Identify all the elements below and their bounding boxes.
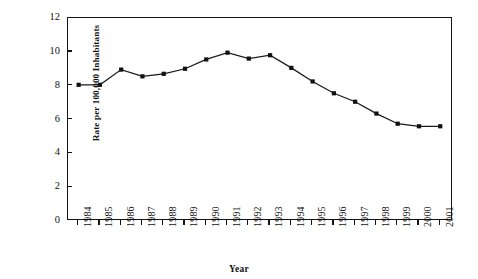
series-polyline xyxy=(79,53,441,127)
x-tick-label: 1989 xyxy=(188,206,199,227)
data-point-marker: 1995: 8.25 xyxy=(311,79,315,83)
x-tick-label: 1987 xyxy=(146,206,157,227)
x-tick-label: 1997 xyxy=(359,206,370,227)
x-tick-label: 2000 xyxy=(422,206,433,227)
data-point-marker: 1991: 9.95 xyxy=(225,51,229,55)
x-tick-mark xyxy=(396,220,397,225)
line-chart: Rate per 100,000 Inhabitants 1984: 8.051… xyxy=(0,0,478,279)
data-point-marker: 1996: 7.55 xyxy=(332,91,336,95)
x-tick-label: 1984 xyxy=(82,206,93,227)
data-point-marker: 1987: 8.55 xyxy=(140,74,144,78)
x-tick-label: 1993 xyxy=(273,206,284,227)
data-point-marker: 1990: 9.55 xyxy=(204,57,208,61)
y-tick-label: 4 xyxy=(38,147,60,157)
data-point-marker: 1993: 9.8 xyxy=(268,53,272,57)
x-tick-label: 1995 xyxy=(316,206,327,227)
x-tick-mark xyxy=(417,220,418,225)
x-tick-mark xyxy=(141,220,142,225)
data-point-marker: 2001: 5.6 xyxy=(438,124,442,128)
data-point-marker: 1994: 9.05 xyxy=(289,66,293,70)
x-tick-mark xyxy=(98,220,99,225)
data-point-marker: 1984: 8.05 xyxy=(77,83,81,87)
x-tick-label: 1998 xyxy=(380,206,391,227)
x-tick-label: 1985 xyxy=(103,206,114,227)
x-tick-label: 1999 xyxy=(401,206,412,227)
x-axis-title: Year xyxy=(0,264,478,274)
y-tick-mark xyxy=(67,118,72,119)
y-tick-label: 10 xyxy=(38,46,60,56)
y-tick-mark xyxy=(67,84,72,85)
x-tick-label: 1994 xyxy=(295,206,306,227)
x-tick-mark xyxy=(120,220,121,225)
y-tick-mark xyxy=(67,152,72,153)
x-tick-mark xyxy=(162,220,163,225)
data-point-marker: 1998: 6.35 xyxy=(374,111,378,115)
x-tick-mark xyxy=(205,220,206,225)
x-tick-label: 2001 xyxy=(444,206,455,227)
x-tick-label: 1988 xyxy=(167,206,178,227)
chart-title-partial xyxy=(120,0,360,9)
x-tick-mark xyxy=(247,220,248,225)
y-tick-label: 8 xyxy=(38,80,60,90)
y-tick-mark xyxy=(67,186,72,187)
data-point-marker: 1999: 5.75 xyxy=(396,122,400,126)
x-tick-label: 1996 xyxy=(337,206,348,227)
x-tick-mark xyxy=(375,220,376,225)
plot-area: Rate per 100,000 Inhabitants 1984: 8.051… xyxy=(67,17,452,220)
x-tick-mark xyxy=(311,220,312,225)
x-tick-mark xyxy=(77,220,78,225)
x-tick-mark xyxy=(332,220,333,225)
data-point-marker: 1986: 8.95 xyxy=(119,68,123,72)
x-tick-label: 1992 xyxy=(252,206,263,227)
data-series-line: 1984: 8.051985: 8.051986: 8.951987: 8.55… xyxy=(68,18,453,221)
x-tick-mark xyxy=(268,220,269,225)
x-tick-label: 1991 xyxy=(231,206,242,227)
x-tick-mark xyxy=(354,220,355,225)
x-tick-mark xyxy=(183,220,184,225)
y-tick-label: 6 xyxy=(38,114,60,124)
data-point-marker: 2000: 5.6 xyxy=(417,124,421,128)
y-tick-label: 2 xyxy=(38,181,60,191)
y-tick-label: 12 xyxy=(38,12,60,22)
data-point-marker: 1997: 7.05 xyxy=(353,100,357,104)
x-tick-mark xyxy=(226,220,227,225)
data-point-marker: 1989: 9 xyxy=(183,67,187,71)
y-tick-mark xyxy=(67,50,72,51)
data-point-marker: 1992: 9.6 xyxy=(247,57,251,61)
x-tick-label: 1986 xyxy=(125,206,136,227)
x-tick-mark xyxy=(439,220,440,225)
data-point-marker: 1988: 8.7 xyxy=(162,72,166,76)
x-tick-label: 1990 xyxy=(210,206,221,227)
data-point-marker: 1985: 8.05 xyxy=(98,83,102,87)
x-tick-mark xyxy=(290,220,291,225)
y-tick-label: 0 xyxy=(38,215,60,225)
